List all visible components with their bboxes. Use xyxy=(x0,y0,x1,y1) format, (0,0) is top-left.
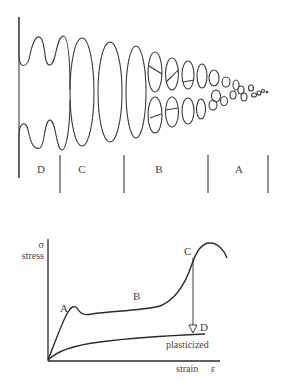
plasticized-label: plasticized xyxy=(166,339,209,350)
dot xyxy=(266,91,268,93)
ellipse xyxy=(252,93,257,97)
ellipse xyxy=(182,61,194,89)
arrow-head-icon xyxy=(189,325,197,333)
fracture-line xyxy=(166,108,178,110)
region-label-a: A xyxy=(235,163,243,175)
ellipse xyxy=(257,91,261,95)
fracture-line xyxy=(150,114,161,118)
figure-canvas: D C B A σ stress A B C D plasticized str… xyxy=(0,0,281,382)
ellipse xyxy=(262,90,265,93)
ellipse xyxy=(166,58,179,90)
ellipse xyxy=(209,100,217,110)
ellipse xyxy=(148,97,162,133)
region-label-b: B xyxy=(155,163,162,175)
point-label-a: A xyxy=(60,302,68,314)
region-label-d: D xyxy=(37,163,45,175)
fracture-line xyxy=(166,70,178,82)
top-wavy-boundary xyxy=(19,17,70,90)
ellipse xyxy=(126,46,146,138)
point-label-c: C xyxy=(184,245,191,257)
ellipse xyxy=(197,99,206,119)
ellipse xyxy=(221,97,228,106)
ellipse xyxy=(182,98,194,124)
ellipse xyxy=(222,77,230,87)
point-label-d: D xyxy=(200,321,208,333)
ellipse xyxy=(197,64,207,88)
ellipse xyxy=(98,42,122,142)
ellipse xyxy=(166,97,179,127)
fracture-line xyxy=(149,66,162,74)
ellipse xyxy=(249,85,254,91)
ellipse xyxy=(209,70,219,86)
ellipse xyxy=(230,91,236,99)
ellipse xyxy=(241,93,247,101)
point-label-b: B xyxy=(133,290,140,302)
x-axis-label: strain xyxy=(176,363,198,374)
fracture-line xyxy=(183,80,194,82)
y-axis-label: stress xyxy=(22,250,44,261)
x-axis-symbol: ε xyxy=(211,363,215,374)
y-axis-symbol: σ xyxy=(39,239,45,250)
region-label-c: C xyxy=(78,163,85,175)
ellipse xyxy=(70,38,94,146)
